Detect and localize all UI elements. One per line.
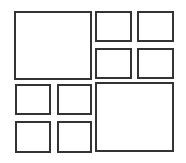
frame-small-top-right-1: [95, 11, 132, 42]
frame-small-bottom-left-2: [57, 84, 92, 115]
frame-large-top-left: [14, 11, 92, 80]
collage-layout-diagram: [0, 0, 186, 163]
frame-small-bottom-left-4: [57, 121, 92, 153]
frame-small-top-right-3: [95, 48, 132, 79]
frame-small-top-right-2: [137, 11, 174, 42]
frame-large-bottom-right: [95, 82, 174, 152]
frame-small-bottom-left-3: [15, 121, 51, 153]
frame-small-top-right-4: [137, 48, 174, 79]
frame-small-bottom-left-1: [15, 84, 51, 115]
